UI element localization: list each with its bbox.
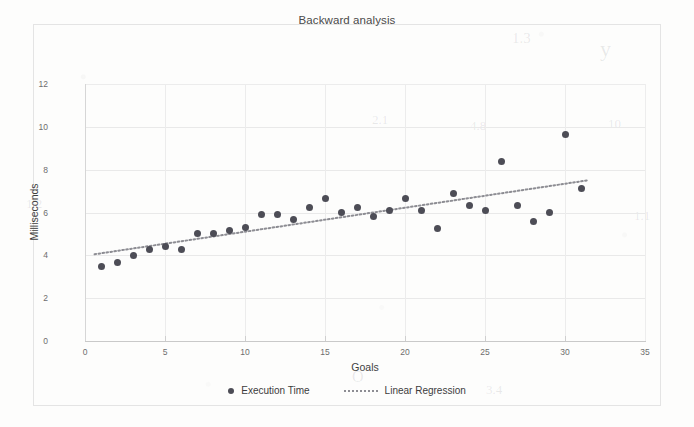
scatter-point xyxy=(530,218,537,225)
chart-title: Backward analysis xyxy=(0,14,694,26)
scatter-point xyxy=(162,243,169,250)
scatter-point xyxy=(450,190,457,197)
legend-label: Linear Regression xyxy=(385,385,466,396)
y-axis-title: Milliseconds xyxy=(28,183,40,240)
plot-border-right xyxy=(645,84,646,342)
legend-item-linear-regression[interactable]: Linear Regression xyxy=(344,385,466,396)
scatter-point xyxy=(498,158,505,165)
x-axis-tick-label: 10 xyxy=(230,347,260,357)
x-axis-tick-label: 15 xyxy=(310,347,340,357)
scatter-point xyxy=(386,207,393,214)
scatter-point xyxy=(578,185,585,192)
x-axis-tick-label: 20 xyxy=(390,347,420,357)
linear-regression-trendline xyxy=(85,84,645,341)
x-axis-tick-label: 25 xyxy=(470,347,500,357)
scatter-point xyxy=(418,207,425,214)
scatter-point xyxy=(466,202,473,209)
scatter-point xyxy=(546,209,553,216)
scatter-point xyxy=(514,202,521,209)
scatter-point xyxy=(482,207,489,214)
scatter-point xyxy=(562,131,569,138)
y-axis-tick-label: 4 xyxy=(8,250,48,260)
scatter-point xyxy=(130,252,137,259)
x-axis-tick-label: 0 xyxy=(70,347,100,357)
y-axis-tick-label: 0 xyxy=(8,336,48,346)
chart-screenshot: 1.3 y 2.1 4.8 10 1.2 1.1 O 3.4 Backward … xyxy=(0,0,694,427)
y-axis-tick-label: 12 xyxy=(8,79,48,89)
scatter-point xyxy=(258,211,265,218)
y-axis-tick-label: 8 xyxy=(8,165,48,175)
scatter-point xyxy=(402,195,409,202)
scatter-point xyxy=(322,195,329,202)
scatter-point xyxy=(210,230,217,237)
x-axis-title: Goals xyxy=(85,361,645,373)
x-axis-line xyxy=(85,341,646,342)
scatter-point xyxy=(98,263,105,270)
scatter-point xyxy=(226,227,233,234)
scatter-point xyxy=(338,209,345,216)
scatter-point xyxy=(354,204,361,211)
scatter-point xyxy=(274,211,281,218)
scatter-point xyxy=(370,213,377,220)
legend-item-execution-time[interactable]: Execution Time xyxy=(228,385,309,396)
dot-marker-icon xyxy=(228,388,234,394)
dotted-line-icon xyxy=(344,390,378,392)
scatter-point xyxy=(242,224,249,231)
plot-area xyxy=(85,84,645,341)
scatter-point xyxy=(114,259,121,266)
x-axis-tick-label: 5 xyxy=(150,347,180,357)
legend-label: Execution Time xyxy=(241,385,309,396)
y-axis-tick-label: 10 xyxy=(8,122,48,132)
scatter-point xyxy=(434,225,441,232)
chart-legend: Execution Time Linear Regression xyxy=(0,385,694,396)
scatter-point xyxy=(194,230,201,237)
scatter-point xyxy=(306,204,313,211)
x-axis-tick-label: 30 xyxy=(550,347,580,357)
y-axis-tick-label: 2 xyxy=(8,293,48,303)
x-axis-tick-label: 35 xyxy=(630,347,660,357)
